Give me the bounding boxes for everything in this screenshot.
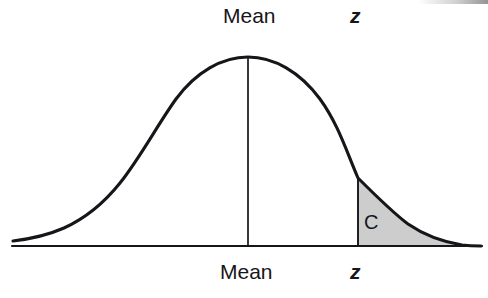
mean-label-top: Mean (223, 5, 276, 26)
bell-curve (13, 57, 481, 246)
distribution-plot (0, 0, 488, 298)
z-label-bottom: z (350, 261, 361, 282)
z-label-top: z (350, 5, 361, 26)
mean-label-bottom: Mean (220, 261, 273, 282)
normal-distribution-figure: Mean z Mean z C (0, 0, 488, 298)
area-label-c: C (364, 212, 378, 232)
